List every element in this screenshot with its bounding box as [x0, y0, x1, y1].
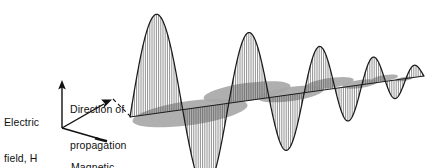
electric-field-label-line2: field, H — [4, 152, 39, 164]
electric-field-label: Electric field, H — [4, 92, 39, 168]
direction-label-line1: Direction of — [70, 103, 127, 115]
magnetic-field-label-line1: Magnetic — [71, 161, 114, 168]
diagram-canvas: Electric field, H Direction of propagati… — [0, 0, 428, 168]
em-wave-svg — [0, 0, 428, 168]
electric-field-label-line1: Electric — [4, 116, 39, 128]
magnetic-field-lobes — [131, 73, 413, 133]
magnetic-field-label: Magnetic field, H — [71, 137, 114, 168]
